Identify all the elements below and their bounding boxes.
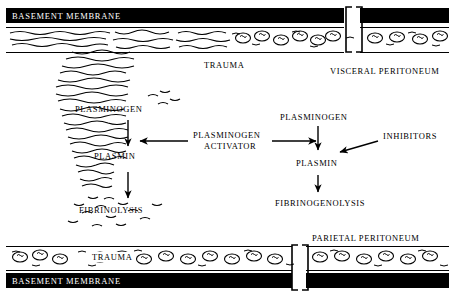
label-trauma-bottom: TRAUMA <box>90 252 134 262</box>
label-plasminogen-right: PLASMINOGEN <box>280 112 348 122</box>
label-visceral-peritoneum: VISCERAL PERITONEUM <box>330 66 439 76</box>
label-inhibitors: INHIBITORS <box>383 131 437 141</box>
label-fibrinogenolysis: FIBRINOGENOLYSIS <box>275 198 365 208</box>
parietal-peritoneum-bracket <box>292 245 308 290</box>
label-plasminogen-activator-line2: ACTIVATOR <box>204 141 256 151</box>
label-plasminogen-left: PLASMINOGEN <box>75 104 143 114</box>
label-fibrinolysis: FIBRINOLYSIS <box>79 205 143 215</box>
label-plasminogen-activator-line1: PLASMINOGEN <box>193 130 261 140</box>
fibrin-clot-mesh <box>56 50 180 226</box>
visceral-tissue-cells <box>10 30 230 49</box>
visceral-peritoneum-bracket <box>346 7 362 52</box>
label-parietal-peritoneum: PARIETAL PERITONEUM <box>312 233 419 243</box>
parietal-tissue-cells <box>13 250 438 264</box>
label-plasmin-right: PLASMIN <box>296 158 338 168</box>
label-trauma-top: TRAUMA <box>204 60 244 70</box>
arrow-inhibitors-to-plasmin <box>340 141 378 152</box>
figure-canvas: BASEMENT MEMBRANE BASEMENT MEMBRANE <box>0 0 455 297</box>
label-plasmin-left: PLASMIN <box>94 151 136 161</box>
